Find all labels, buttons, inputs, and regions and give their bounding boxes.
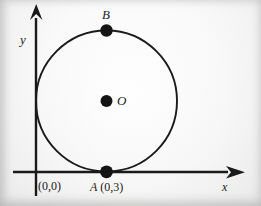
x-axis-arrowhead-icon xyxy=(226,166,245,179)
point-B-label: B xyxy=(102,8,110,21)
geometry-figure: y x B O (0,0) A (0,3) xyxy=(0,0,261,206)
point-B-marker xyxy=(100,24,112,36)
point-O-label: O xyxy=(117,94,126,107)
origin-label: (0,0) xyxy=(38,180,61,192)
y-axis-label: y xyxy=(20,33,26,46)
point-O-marker xyxy=(101,95,113,107)
point-A-label: A (0,3) xyxy=(90,180,123,195)
figure-canvas xyxy=(0,0,261,206)
x-axis-label: x xyxy=(222,181,227,193)
y-axis-arrowhead-icon xyxy=(30,4,42,20)
point-A-marker xyxy=(100,165,113,178)
point-A-coords: (0,3) xyxy=(97,180,123,194)
